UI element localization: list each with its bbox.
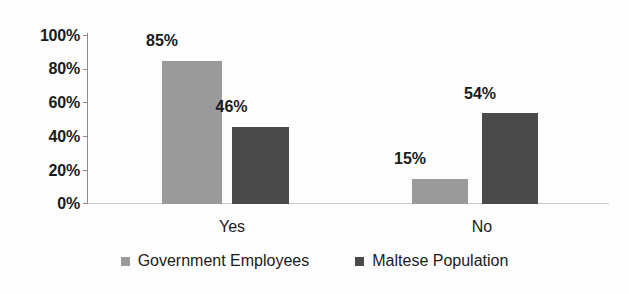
data-label-yes-maltese-population: 46% (203, 99, 260, 115)
y-tick-label-100: 100% (40, 28, 80, 44)
bar-no-maltese-population[interactable] (482, 113, 538, 204)
legend-swatch-icon-government-employees (121, 257, 130, 266)
legend-item-government-employees[interactable]: Government Employees (121, 253, 310, 269)
legend-swatch-icon-maltese-population (355, 257, 364, 266)
y-tick-label-20: 20% (49, 163, 80, 179)
plot-area (88, 30, 608, 204)
legend-item-maltese-population[interactable]: Maltese Population (355, 253, 508, 269)
bar-yes-government-employees[interactable] (162, 61, 222, 204)
y-tick-label-60: 60% (49, 95, 80, 111)
category-label-no: No (442, 219, 522, 235)
legend-label-government-employees: Government Employees (138, 253, 310, 269)
y-axis-labels: 100% 80% 60% 40% 20% 0% (0, 0, 80, 294)
data-label-yes-government-employees: 85% (132, 33, 192, 49)
y-tick-label-80: 80% (49, 61, 80, 77)
chart-legend: Government Employees Maltese Population (0, 253, 629, 269)
y-tick-label-40: 40% (49, 129, 80, 145)
bar-yes-maltese-population[interactable] (232, 127, 289, 204)
legend-label-maltese-population: Maltese Population (372, 253, 508, 269)
category-label-yes: Yes (192, 219, 272, 235)
data-label-no-maltese-population: 54% (452, 86, 508, 102)
bar-chart: 100% 80% 60% 40% 20% 0% 85% 46% 15% 54% … (0, 0, 629, 294)
bar-no-government-employees[interactable] (412, 179, 468, 204)
data-label-no-government-employees: 15% (382, 151, 438, 167)
y-tick-label-0: 0% (57, 196, 80, 212)
